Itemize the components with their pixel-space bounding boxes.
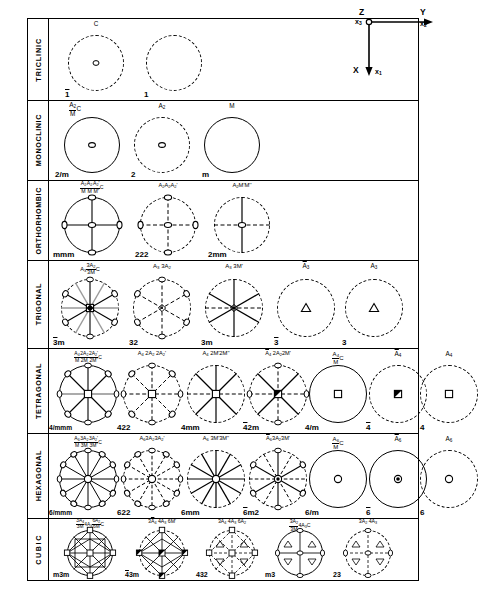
pointgroup-cell[interactable]: A2MC 2/m — [55, 101, 129, 180]
symmetry-symbols — [51, 349, 125, 434]
hermann-mauguin-symbol: m3m — [53, 571, 69, 578]
system-cells-tetragonal: A4M2A22M2A2'2M'C — [49, 349, 418, 433]
hermann-mauguin-symbol: 6/m — [305, 509, 319, 517]
pointgroup-cell[interactable]: A4 4 — [419, 349, 479, 433]
pointgroup-cell[interactable]: A4M2A22M2A2'2M'C — [51, 349, 125, 433]
pointgroup-cell[interactable]: 3A4 4A3 6M' — [125, 519, 199, 580]
system-label-cubic: CUBIC — [28, 519, 49, 580]
symmetry-symbols — [205, 181, 279, 261]
hermann-mauguin-symbol: m3 — [265, 571, 275, 578]
symmetry-symbols — [53, 261, 127, 349]
pointgroup-cell[interactable]: 3A43M4A36A26MC — [53, 519, 127, 580]
pointgroup-cell[interactable]: 3A4 4A3 6A2 — [195, 519, 269, 580]
pointgroup-cell[interactable]: A63A23A2' — [115, 434, 189, 518]
stereogram-circle — [146, 35, 202, 91]
pointgroup-cell[interactable]: 1 — [137, 19, 211, 100]
hermann-mauguin-symbol: 4/m — [305, 424, 319, 432]
pointgroup-cell[interactable]: A2A2A2' 222 — [131, 181, 205, 260]
symmetry-symbols — [419, 434, 479, 519]
system-cells-cubic: 3A43M4A36A26MC — [49, 519, 418, 580]
axis-label-x2: x2 — [420, 20, 427, 28]
pointgroup-cell[interactable]: 3A2 4A3 — [331, 519, 405, 580]
hermann-mauguin-symbol: 4 — [366, 424, 370, 432]
pointgroup-cell[interactable]: A3 3 — [337, 261, 411, 348]
pointgroup-cell[interactable]: A3 3A2 — [125, 261, 199, 348]
hermann-mauguin-symbol: 422 — [117, 424, 130, 432]
symmetry-symbols — [125, 261, 199, 349]
hermann-mauguin-symbol: 432 — [196, 571, 208, 578]
hermann-mauguin-symbol: 4 — [420, 424, 424, 432]
hermann-mauguin-symbol: m — [202, 171, 209, 179]
system-label-triclinic: TRICLINIC — [28, 19, 49, 100]
pointgroup-cell[interactable]: 3A23M4A3C — [263, 519, 337, 580]
pointgroup-cell[interactable]: A33A23MC — [53, 261, 127, 348]
hermann-mauguin-symbol: 6 — [366, 509, 370, 517]
hermann-mauguin-symbol: 2 — [131, 171, 135, 179]
system-row-triclinic: TRICLINIC C 1 1 — [28, 19, 418, 101]
hermann-mauguin-symbol: 43m — [125, 571, 139, 578]
hermann-mauguin-symbol: 6/mmm — [49, 510, 72, 517]
symmetry-symbols — [55, 181, 129, 261]
symmetry-symbols — [419, 349, 479, 434]
symmetry-symbols — [331, 519, 405, 580]
hermann-mauguin-symbol: 2/m — [55, 171, 69, 179]
hermann-mauguin-symbol: 1 — [65, 91, 69, 99]
hermann-mauguin-symbol: 4/mmm — [49, 425, 72, 432]
system-label-tetragonal: TETRAGONAL — [28, 349, 49, 433]
system-row-orthorhombic: ORTHORHOMBIC A2MA2MA2'M'C mmm — [28, 181, 418, 261]
pointgroup-cell[interactable]: A6 6 — [419, 434, 479, 518]
hermann-mauguin-symbol: 222 — [135, 251, 148, 259]
system-row-hexagonal: HEXAGONAL A6M3A23M3A2'3M'C — [28, 434, 418, 519]
system-cells-hexagonal: A6M3A23M3A2'3M'C — [49, 434, 418, 518]
system-label-hexagonal: HEXAGONAL — [28, 434, 49, 518]
system-cells-orthorhombic: A2MA2MA2'M'C mmm A2A2A2' — [49, 181, 418, 260]
system-label-monoclinic: MONOCLINIC — [28, 101, 49, 180]
pointgroup-cell[interactable]: C 1 — [59, 19, 133, 100]
symmetry-symbols — [55, 101, 129, 181]
pointgroup-cell[interactable]: A3 3 — [269, 261, 343, 348]
system-cells-monoclinic: A2MC 2/m A2 2 M — [49, 101, 418, 180]
pointgroup-cell[interactable]: A2M'M'' 2mm — [205, 181, 279, 260]
symmetry-symbols — [51, 434, 125, 519]
system-row-trigonal: TRIGONAL A33A23MC — [28, 261, 418, 349]
symmetry-symbols — [115, 434, 189, 519]
system-row-monoclinic: MONOCLINIC A2MC 2/m A2 2 — [28, 101, 418, 181]
hermann-mauguin-symbol: 1 — [144, 91, 148, 99]
hermann-mauguin-symbol: 6m2 — [243, 509, 259, 517]
pointgroup-cell[interactable]: A6M3A23M3A2'3M'C — [51, 434, 125, 518]
hermann-mauguin-symbol: 23 — [333, 571, 341, 578]
pointgroup-cell[interactable]: A3 3M' 3m — [197, 261, 271, 348]
system-label-orthorhombic: ORTHORHOMBIC — [28, 181, 49, 260]
hermann-mauguin-symbol: 3m — [201, 339, 213, 347]
hermann-mauguin-symbol: 4mm — [181, 424, 200, 432]
symmetry-symbols — [125, 101, 199, 181]
pointgroup-cell[interactable]: A2MA2MA2'M'C mmm — [55, 181, 129, 260]
symmetry-symbols — [197, 261, 271, 349]
pointgroup-cell[interactable]: A2 2 — [125, 101, 199, 180]
axis-label-z: Z — [359, 8, 364, 17]
point-group-table: TRICLINIC C 1 1 MONOCLINIC — [27, 18, 419, 581]
hermann-mauguin-symbol: 3 — [274, 339, 278, 347]
hermann-mauguin-symbol: 6 — [420, 509, 424, 517]
hermann-mauguin-symbol: 2mm — [208, 251, 227, 259]
hermann-mauguin-symbol: 3m — [53, 339, 65, 347]
hermann-mauguin-symbol: 6mm — [181, 509, 200, 517]
system-row-cubic: CUBIC 3A43M4A36A26MC — [28, 519, 418, 580]
pointgroup-cell[interactable]: M m — [195, 101, 269, 180]
system-cells-trigonal: A33A23MC — [49, 261, 418, 348]
system-label-trigonal: TRIGONAL — [28, 261, 49, 348]
system-row-tetragonal: TETRAGONAL A4M2A22M2A2'2M'C — [28, 349, 418, 434]
axis-label-y: Y — [420, 8, 426, 17]
hermann-mauguin-symbol: 42m — [243, 424, 259, 432]
hermann-mauguin-symbol: mmm — [53, 251, 74, 259]
hermann-mauguin-symbol: 3 — [342, 339, 346, 347]
symmetry-symbols — [59, 19, 133, 101]
symmetry-symbols — [269, 261, 343, 349]
hermann-mauguin-symbol: 32 — [129, 339, 138, 347]
system-cells-triclinic: C 1 1 — [49, 19, 418, 100]
pointgroup-cell[interactable]: A4 2A2 2A2' — [115, 349, 189, 433]
symmetry-symbols — [131, 181, 205, 261]
symmetry-symbols — [115, 349, 189, 434]
hermann-mauguin-symbol: 622 — [117, 509, 130, 517]
